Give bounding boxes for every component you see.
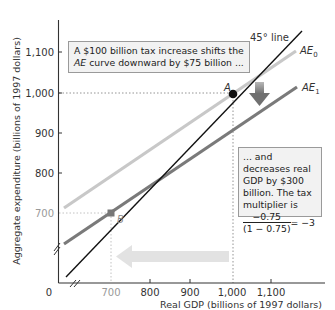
fraction: −0.75 (1 − 0.75) [243, 211, 291, 234]
ae1-label: AE1 [301, 82, 320, 96]
fraction-denominator: (1 − 0.75) [243, 223, 291, 234]
x-tick-900: 900 [180, 287, 199, 298]
line-45-label: 45° line [250, 32, 289, 43]
y-tick-800: 800 [35, 168, 54, 179]
x-axis-title: Real GDP (billions of 1997 dollars) [160, 299, 322, 310]
note-right-text: ... and decreases real GDP by $300 billi… [243, 151, 312, 210]
tax-multiplier-annotation: ... and decreases real GDP by $300 billi… [238, 147, 322, 217]
fraction-result: = −3 [291, 217, 315, 229]
y-tick-900: 900 [35, 128, 54, 139]
tax-increase-annotation: A $100 billion tax increase shifts the A… [68, 41, 250, 73]
x-tick-700: 700 [101, 287, 120, 298]
y-tick-700: 700 [35, 208, 54, 219]
note-top-em: AE [74, 57, 86, 68]
x-tick-800: 800 [140, 287, 159, 298]
y-tick-1000: 1,000 [25, 88, 54, 99]
y-axis-title: Aggregate expenditure (billions of 1997 … [11, 37, 22, 265]
gdp-decrease-arrow [116, 245, 229, 268]
origin-label: 0 [46, 287, 52, 298]
x-tick-1000: 1,000 [218, 287, 247, 298]
note-top-pre: A $100 billion tax increase shifts the [74, 45, 244, 56]
y-tick-1100: 1,100 [25, 47, 54, 58]
point-b-label: B [117, 214, 124, 225]
x-ticks [150, 279, 271, 283]
tax-multiplier-formula: −0.75 (1 − 0.75) = −3 [243, 211, 317, 234]
ae-shift-arrow [249, 82, 270, 106]
point-b-marker [108, 210, 115, 217]
ae0-label: AE0 [299, 45, 318, 59]
point-a-label: A [223, 82, 231, 93]
axis-break-marks [54, 243, 80, 287]
fraction-numerator: −0.75 [243, 211, 291, 223]
note-top-post: curve downward by $75 billion ... [86, 57, 244, 68]
x-tick-1100: 1,100 [257, 287, 286, 298]
